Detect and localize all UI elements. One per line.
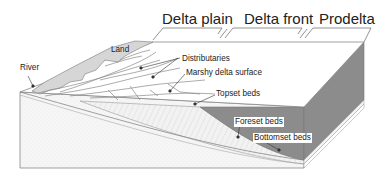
- label-foreset-beds: Foreset beds: [234, 117, 284, 127]
- zone-label-delta-front: Delta front: [244, 11, 313, 27]
- label-land: Land: [110, 45, 130, 55]
- label-river: River: [19, 63, 40, 73]
- label-bottomset-beds: Bottomset beds: [253, 133, 312, 143]
- label-distributaries: Distributaries: [181, 54, 231, 64]
- zone-brackets: [153, 28, 371, 42]
- zone-label-prodelta: Prodelta: [319, 11, 375, 27]
- label-topset-beds: Topset beds: [215, 89, 261, 99]
- zone-label-delta-plain: Delta plain: [162, 11, 233, 27]
- label-marshy-delta-surface: Marshy delta surface: [185, 68, 263, 78]
